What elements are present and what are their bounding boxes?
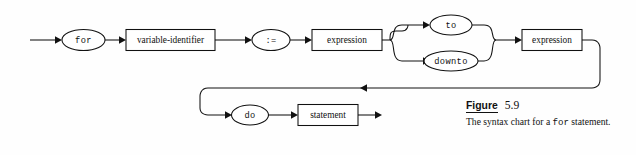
node-expression-initial: expression — [312, 30, 382, 51]
figure-caption: Figure 5.9 The syntax chart for a for st… — [466, 100, 626, 130]
figure-caption-heading: Figure 5.9 — [466, 100, 626, 113]
figure-label: Figure — [466, 100, 498, 113]
node-to-keyword-label: to — [445, 21, 456, 31]
exit-line — [358, 111, 382, 119]
node-variable-identifier: variable-identifier — [126, 30, 215, 51]
connector-for-to-variable — [105, 36, 126, 44]
entry-line — [30, 36, 62, 44]
node-assign-operator-label: := — [265, 36, 276, 46]
node-downto-keyword-label: downto — [434, 57, 468, 67]
caption-text-after: statement. — [569, 116, 611, 127]
figure-caption-text: The syntax chart for a for statement. — [466, 116, 626, 129]
branch-split — [382, 21, 430, 65]
node-assign-operator: := — [252, 30, 290, 51]
node-do-keyword-label: do — [244, 111, 255, 121]
node-do-keyword: do — [232, 105, 269, 125]
node-downto-keyword: downto — [424, 51, 478, 71]
caption-keyword-for: for — [553, 117, 569, 128]
connector-do-to-statement — [269, 111, 299, 119]
node-expression-initial-label: expression — [327, 35, 367, 45]
node-to-keyword: to — [430, 15, 472, 35]
connector-variable-to-assign — [215, 36, 252, 44]
node-statement-label: statement — [310, 110, 346, 120]
syntax-chart-diagram: for variable-identifier := — [0, 0, 636, 155]
node-expression-final-label: expression — [532, 35, 572, 45]
branch-merge — [472, 25, 522, 61]
caption-text-before: The syntax chart for a — [466, 116, 553, 127]
node-expression-final: expression — [522, 30, 582, 51]
node-for-keyword-label: for — [75, 36, 92, 46]
node-statement: statement — [298, 105, 358, 126]
node-for-keyword: for — [62, 30, 105, 51]
node-variable-identifier-label: variable-identifier — [137, 35, 205, 45]
figure-container: for variable-identifier := — [0, 0, 636, 155]
connector-assign-to-expression — [290, 36, 312, 44]
figure-number: 5.9 — [505, 100, 520, 113]
